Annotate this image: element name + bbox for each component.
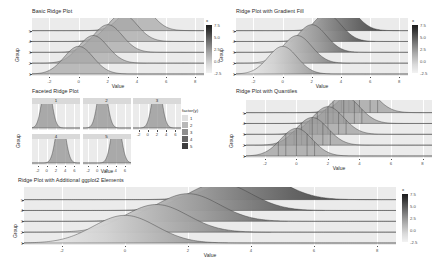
- ridge-density-4: [32, 139, 80, 163]
- x-tick-label: -2: [60, 248, 64, 253]
- x-tick-label: 8: [398, 79, 400, 84]
- ridgeline-series: [24, 187, 396, 245]
- x-tick-label: 4: [358, 161, 360, 166]
- x-tick-label: 6: [165, 79, 167, 84]
- legend-key-swatch[interactable]: [182, 143, 188, 149]
- x-axis-label: Value: [246, 165, 432, 171]
- x-tick-label: 4: [165, 132, 167, 137]
- y-tick-mark: [22, 200, 24, 201]
- plot-panel: [236, 18, 408, 76]
- legend-key-swatch[interactable]: [182, 122, 188, 128]
- legend-key-swatch[interactable]: [182, 115, 188, 121]
- x-tick-label: 2: [311, 79, 313, 84]
- x-tick-label: 2: [156, 132, 158, 137]
- colorbar: [412, 25, 418, 73]
- x-axis-label: Value: [32, 168, 182, 174]
- x-tick-label: -2: [263, 161, 267, 166]
- y-tick-mark: [234, 52, 236, 53]
- ridge-density-3: [133, 104, 181, 128]
- x-tick-label: 8: [376, 248, 378, 253]
- plot-quantiles: Ridge Plot with Quantiles Group Value -2…: [214, 86, 442, 176]
- plot-title: Ridge Plot with Additional ggplot2 Eleme…: [18, 177, 124, 183]
- y-tick-mark: [22, 232, 24, 233]
- legend-key-label: 4: [190, 137, 192, 142]
- plot-title: Ridge Plot with Gradient Fill: [236, 8, 304, 14]
- ridgeline-series: [32, 18, 204, 76]
- colorbar-tick-label: 5.0: [420, 35, 426, 40]
- plot-additional-elements: Ridge Plot with Additional ggplot2 Eleme…: [10, 176, 442, 267]
- x-tick-label: -2: [48, 79, 52, 84]
- ridge-density-1: [32, 104, 80, 128]
- legend-key-swatch[interactable]: [182, 129, 188, 135]
- colorbar: [206, 25, 212, 73]
- ridgeline-series: [236, 18, 408, 76]
- x-tick-label: 6: [313, 248, 315, 253]
- plot-panel: [246, 100, 432, 158]
- plot-panel: [32, 18, 204, 76]
- facet-panel: [133, 104, 181, 130]
- x-tick-label: 4: [136, 79, 138, 84]
- colorbar-tick-label: 7.5: [420, 23, 426, 28]
- ridgeline-series: [32, 104, 80, 130]
- colorbar: [402, 194, 408, 242]
- colorbar-tick-label: 2.5: [420, 47, 426, 52]
- ridgeline-series: [246, 100, 432, 158]
- plot-title: Ridge Plot with Quantiles: [236, 88, 297, 94]
- legend-key-label: 3: [190, 130, 192, 135]
- y-tick-mark: [22, 243, 24, 244]
- x-tick-label: 6: [174, 132, 176, 137]
- ridgeline-series: [83, 104, 131, 130]
- ridgeline-series: [133, 104, 181, 130]
- legend-title: x: [412, 18, 414, 23]
- legend-title: factor(y): [182, 108, 198, 113]
- facet-panel: [32, 139, 80, 165]
- y-tick-mark: [234, 31, 236, 32]
- x-tick-label: 2: [187, 248, 189, 253]
- x-tick-label: 0: [77, 79, 79, 84]
- ridgeline-series: [83, 139, 131, 165]
- plot-basic-ridge: Basic Ridge Plot Group Value x 7.55.02.5…: [10, 6, 215, 90]
- legend-title: x: [206, 18, 208, 23]
- y-tick-mark: [234, 41, 236, 42]
- facet-panel: [32, 104, 80, 130]
- y-axis-label: Group: [218, 48, 224, 62]
- x-tick-label: 6: [369, 79, 371, 84]
- facet-panel: [83, 139, 131, 165]
- x-tick-label: 0: [295, 161, 297, 166]
- y-tick-mark: [244, 123, 246, 124]
- y-axis-label: Group: [15, 134, 21, 148]
- colorbar-tick-label: 0.0: [420, 59, 426, 64]
- x-tick-label: 6: [390, 161, 392, 166]
- colorbar-tick-label: -2.5: [420, 71, 427, 76]
- legend-key-label: 2: [190, 123, 192, 128]
- legend-key-label: 5: [190, 144, 192, 149]
- colorbar-tick-label: 2.5: [410, 216, 416, 221]
- x-tick-label: 8: [421, 161, 423, 166]
- plot-title: Faceted Ridge Plot: [32, 88, 79, 94]
- x-axis-label: Value: [24, 252, 396, 258]
- plot-title: Basic Ridge Plot: [32, 8, 72, 14]
- y-axis-label: Group: [228, 134, 234, 148]
- y-tick-mark: [30, 52, 32, 53]
- colorbar-tick-label: 7.5: [410, 192, 416, 197]
- colorbar-tick-label: 5.0: [410, 204, 416, 209]
- colorbar-tick-label: -2.5: [410, 240, 417, 245]
- y-tick-mark: [244, 134, 246, 135]
- plot-gradient-fill: Ridge Plot with Gradient Fill Group Valu…: [214, 6, 442, 90]
- ridge-density-5: [83, 139, 131, 163]
- legend-title: x: [402, 187, 404, 192]
- x-tick-label: -2: [252, 79, 256, 84]
- legend-key-swatch[interactable]: [182, 136, 188, 142]
- y-tick-mark: [244, 156, 246, 157]
- y-tick-mark: [30, 74, 32, 75]
- plot-panel: [24, 187, 396, 245]
- y-tick-mark: [30, 41, 32, 42]
- ridge-density-2: [83, 104, 131, 128]
- y-tick-mark: [30, 31, 32, 32]
- x-tick-label: 0: [124, 248, 126, 253]
- x-tick-label: 0: [281, 79, 283, 84]
- y-axis-label: Group: [14, 48, 20, 62]
- x-tick-label: 2: [107, 79, 109, 84]
- ridgeline-series: [32, 139, 80, 165]
- x-tick-label: 0: [147, 132, 149, 137]
